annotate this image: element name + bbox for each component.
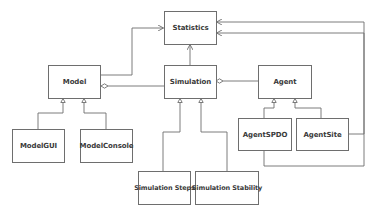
class-simulation-steps: Simulation Steps <box>138 171 191 205</box>
uml-class-diagram: Statistics Model Simulation Agent ModelG… <box>0 0 375 217</box>
dependency-model-statistics <box>101 28 164 75</box>
class-model: Model <box>48 65 101 99</box>
class-agent: Agent <box>258 65 312 99</box>
class-simulation-stability: Simulation Stability <box>195 171 259 205</box>
class-statistics: Statistics <box>164 11 217 45</box>
generalization-triangle-icon <box>293 99 297 103</box>
class-simulation: Simulation <box>164 65 217 99</box>
aggregation-diamond-icon <box>101 84 108 88</box>
generalization-triangle-icon <box>178 99 182 103</box>
generalization-triangle-icon <box>61 99 65 103</box>
generalization-triangle-icon <box>199 99 203 103</box>
class-agent-spdo: AgentSPDO <box>238 118 292 151</box>
generalization-triangle-icon <box>82 99 86 103</box>
aggregation-diamond-icon <box>216 79 223 83</box>
generalization-triangle-icon <box>272 99 276 103</box>
class-model-gui: ModelGUI <box>12 129 65 163</box>
class-agent-site: AgentSite <box>296 118 349 151</box>
class-model-console: ModelConsole <box>80 129 133 163</box>
